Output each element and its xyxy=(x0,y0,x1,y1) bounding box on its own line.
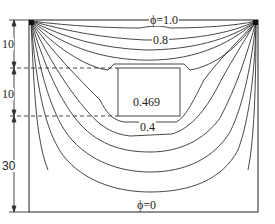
contour-0.9 xyxy=(31,21,256,28)
contour-0.75 xyxy=(31,21,256,50)
label-phi-bottom: ϕ=0 xyxy=(136,199,157,211)
dimension-label-middle: 10 xyxy=(2,88,14,100)
corner-source-left xyxy=(29,20,34,25)
label-contour-08: 0.8 xyxy=(152,34,169,46)
contour-0.7 xyxy=(31,21,256,60)
contour-0.6 xyxy=(31,21,256,70)
label-inner-value: 0.469 xyxy=(132,96,161,108)
dimension-label-top: 10 xyxy=(2,38,14,50)
contour-0.8 xyxy=(31,21,256,40)
label-contour-04: 0.4 xyxy=(139,121,156,133)
contour-diagram xyxy=(0,0,275,224)
dimension-label-bottom: 30 xyxy=(2,160,15,172)
corner-source-right xyxy=(253,20,258,25)
label-phi-top: ϕ=1.0 xyxy=(149,14,179,26)
